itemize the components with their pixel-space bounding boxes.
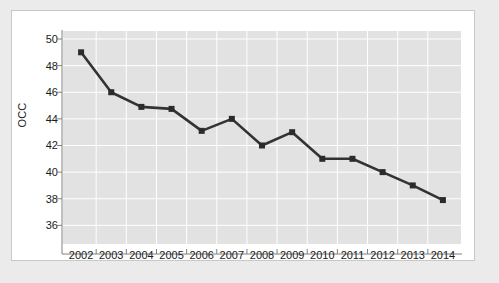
x-tick-label: 2008: [250, 249, 274, 261]
x-tick-label: 2012: [370, 249, 394, 261]
x-tick-label: 2009: [280, 249, 304, 261]
x-tick-label: 2011: [341, 249, 365, 261]
y-tick-label: 50: [46, 33, 58, 45]
plot-area: [63, 31, 461, 244]
x-tick-label: 2004: [129, 249, 153, 261]
x-tick-label: 2007: [220, 249, 244, 261]
x-tick-label: 2013: [401, 249, 425, 261]
data-series-occ: [63, 31, 461, 244]
y-tick-label: 40: [46, 166, 58, 178]
y-tick-label: 38: [46, 193, 58, 205]
x-tick-label: 2005: [159, 249, 183, 261]
y-tick-label: 44: [46, 113, 58, 125]
x-tick-label: 2003: [99, 249, 123, 261]
x-tick-label: 2010: [310, 249, 334, 261]
x-tick-label: 2014: [431, 249, 455, 261]
y-tick-label: 46: [46, 86, 58, 98]
y-tick-label: 48: [46, 60, 58, 72]
x-tick-label: 2006: [189, 249, 213, 261]
chart-figure-frame: OCC 3638404244464850 2002200320042005200…: [11, 10, 475, 261]
y-tick-label: 36: [46, 219, 58, 231]
x-axis-tick-labels: 2002200320042005200620072008200920102011…: [63, 249, 461, 265]
x-tick-label: 2002: [69, 249, 93, 261]
y-axis-tick-labels: 3638404244464850: [25, 31, 58, 244]
y-tick-label: 42: [46, 139, 58, 151]
